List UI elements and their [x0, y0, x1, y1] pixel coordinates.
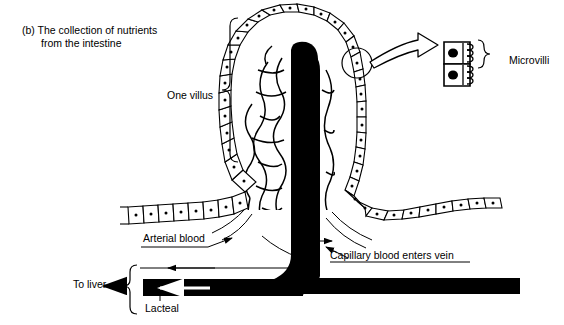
microvilli-brace	[478, 40, 490, 68]
label-to-liver: To liver	[73, 278, 106, 290]
to-liver-brace	[123, 265, 137, 314]
magnify-arrow-icon	[370, 33, 438, 68]
epithelium-row-left	[120, 192, 248, 224]
label-microvilli: Microvilli	[509, 54, 549, 66]
caption-line-1: The collection of nutrients	[38, 24, 158, 36]
label-arterial-blood: Arterial blood	[143, 232, 205, 244]
microvilli-inset	[444, 40, 490, 86]
villus-diagram: (b) The collection of nutrientsfrom the …	[0, 0, 564, 325]
caption-part-letter: (b)	[22, 24, 35, 36]
label-one-villus: One villus	[167, 89, 213, 101]
capillary-network	[244, 46, 334, 248]
epithelium-dome	[236, 4, 344, 32]
label-capillary-blood: Capillary blood enters vein	[330, 249, 454, 261]
caption-line-2: from the intestine	[22, 37, 157, 50]
label-lacteal: Lacteal	[145, 302, 179, 314]
epithelium-wall-left	[219, 31, 256, 192]
epithelium-row-right	[345, 190, 502, 220]
figure-caption: (b) The collection of nutrientsfrom the …	[22, 24, 157, 50]
